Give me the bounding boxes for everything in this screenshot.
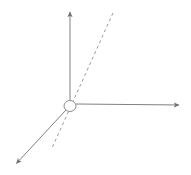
dashed-line-group [52,13,113,148]
horizontal-axis-line [76,104,179,105]
axes-group [16,12,178,163]
origin-marker-group [64,101,76,112]
depth-axis-line [16,110,66,163]
axis-triad-diagram [0,0,191,175]
diagram-canvas [0,0,191,175]
dashed-reference-line [52,13,113,148]
origin-ellipse-icon [64,101,76,112]
